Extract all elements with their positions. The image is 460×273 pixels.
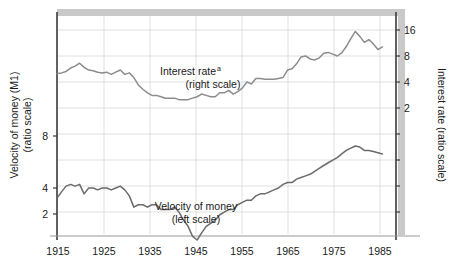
x-tick-label-1985: 1985 <box>368 245 392 257</box>
interest-rate-annotation-superscript: a <box>217 65 221 72</box>
x-tick-label-1955: 1955 <box>230 245 254 257</box>
left-tick-label-2: 2 <box>42 208 48 220</box>
velocity-annotation-line2: (left scale) <box>172 213 220 225</box>
x-tick-label-1945: 1945 <box>184 245 208 257</box>
right-tick-label-4: 4 <box>404 76 410 88</box>
x-tick-label-1915: 1915 <box>46 245 70 257</box>
x-axis-tick-labels: 1915 1925 1935 1945 1955 1965 1975 1985 <box>46 245 392 257</box>
right-axis-title: Interest rate (ratio scale) <box>436 68 448 182</box>
x-tick-label-1925: 1925 <box>92 245 116 257</box>
velocity-annotation-line1: Velocity of money <box>155 200 238 212</box>
left-tick-label-8: 8 <box>42 130 48 142</box>
velocity-interest-rate-chart: 8 4 2 16 8 4 2 Interest rate a (right sc… <box>0 0 460 273</box>
right-tick-label-8: 8 <box>404 50 410 62</box>
left-axis-title-line2: (ratio scale) <box>21 98 33 153</box>
left-tick-label-4: 4 <box>42 182 48 194</box>
x-tick-label-1935: 1935 <box>138 245 162 257</box>
right-tick-label-16: 16 <box>404 24 416 36</box>
left-axis-title-line1: Velocity of money (M1) <box>8 72 20 179</box>
right-tick-label-2: 2 <box>404 102 410 114</box>
interest-rate-annotation-line2: (right scale) <box>186 78 241 90</box>
x-tick-label-1975: 1975 <box>322 245 346 257</box>
panel-shadow-right <box>398 9 405 235</box>
left-axis-title: Velocity of money (M1) (ratio scale) <box>8 72 33 179</box>
x-tick-label-1965: 1965 <box>276 245 300 257</box>
panel-shadow-top <box>57 9 405 16</box>
interest-rate-annotation-line1: Interest rate <box>160 65 216 77</box>
